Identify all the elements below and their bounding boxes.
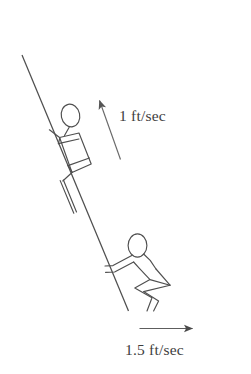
upper-person-head [59, 102, 82, 128]
up-arrow-icon [100, 101, 121, 160]
upper-person-torso [60, 133, 92, 173]
upper-person-arm [49, 130, 59, 138]
vertical-speed-label: 1 ft/sec [119, 107, 166, 125]
vertical-velocity-arrow [100, 101, 121, 160]
horizontal-speed-label: 1.5 ft/sec [125, 341, 184, 359]
upper-person-hip-line [68, 158, 89, 166]
lower-person-leg-back [144, 285, 170, 311]
upper-person-leg [63, 173, 72, 182]
lower-person-arm [144, 254, 156, 269]
lower-person-torso [134, 262, 170, 285]
upper-person [49, 102, 91, 213]
physics-diagram: 1 ft/sec 1.5 ft/sec [0, 0, 251, 374]
diagram-canvas [0, 0, 251, 374]
upper-person-foot-2 [60, 181, 74, 214]
lower-person-head [128, 234, 147, 257]
lower-person [105, 234, 170, 311]
upper-person-foot [63, 180, 76, 212]
upper-person-neck [65, 127, 70, 135]
